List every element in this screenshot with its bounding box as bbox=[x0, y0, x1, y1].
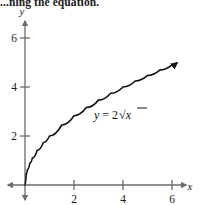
graph-figure: 2 4 6 x 2 4 6 y y=2√x bbox=[0, 0, 199, 205]
equation-operator: = bbox=[102, 108, 109, 122]
figure-page: ...ning the equation. 2 4 6 x bbox=[0, 0, 199, 205]
svg-text:y=2√x: y=2√x bbox=[93, 108, 132, 122]
x-tick-label-6: 6 bbox=[169, 193, 175, 205]
equation-lhs: y bbox=[93, 108, 100, 122]
x-tick-label-4: 4 bbox=[120, 193, 126, 205]
x-axis-label: x bbox=[187, 180, 193, 192]
y-tick-label-4: 4 bbox=[11, 81, 17, 93]
y-tick-label-6: 6 bbox=[11, 32, 17, 44]
y-tick-label-2: 2 bbox=[11, 130, 17, 142]
x-tick-label-2: 2 bbox=[71, 193, 77, 205]
equation-annotation: y=2√x bbox=[93, 108, 147, 122]
x-axis: 2 4 6 x bbox=[8, 180, 193, 205]
equation-radicand: x bbox=[125, 108, 132, 122]
y-axis-label: y bbox=[19, 5, 25, 17]
curve-y-equals-2-sqrt-x bbox=[25, 63, 177, 185]
equation-coefficient: 2 bbox=[112, 108, 118, 122]
